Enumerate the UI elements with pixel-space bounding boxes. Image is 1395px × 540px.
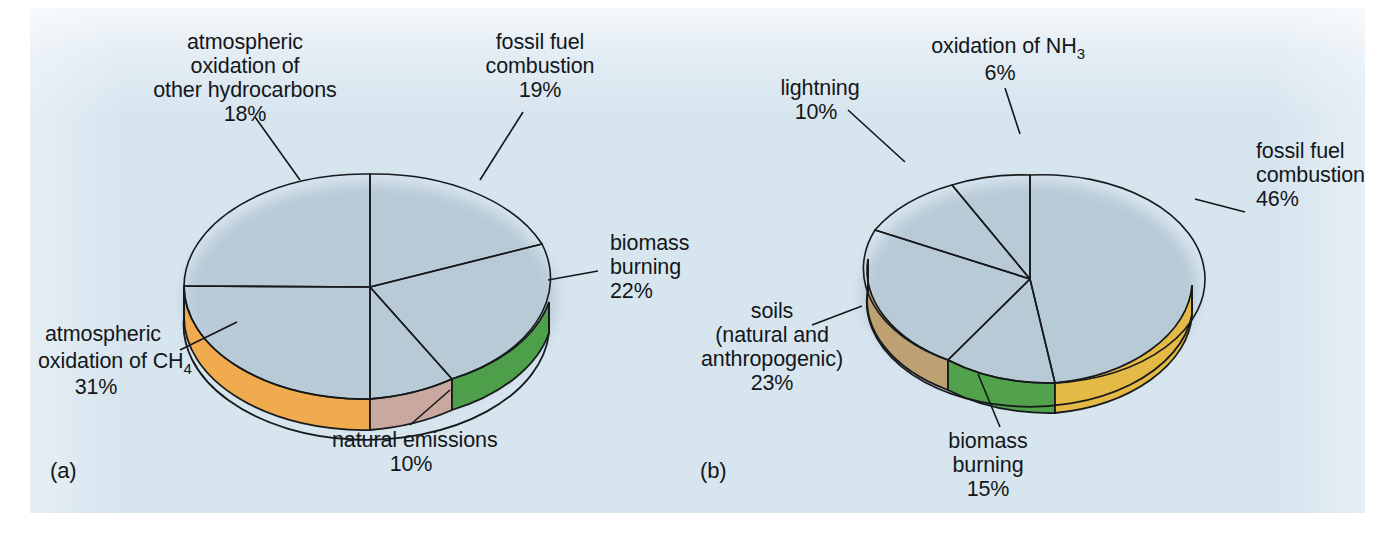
- label-lightning-line1: lightning: [780, 76, 859, 100]
- pie-charts-figure: atmospheric oxidation of other hydrocarb…: [0, 0, 1395, 540]
- pie-a-leader-hydrocarbons: [255, 117, 300, 180]
- label-soils-line1: soils: [751, 299, 794, 323]
- pie-b-label-soils: soils (natural and anthropogenic) 23%: [701, 299, 843, 395]
- pie-a-label-hydrocarbons: atmospheric oxidation of other hydrocarb…: [153, 30, 336, 126]
- label-lightning-percent: 10%: [795, 100, 838, 124]
- label-b-fossil-line1: fossil fuel: [1256, 139, 1345, 163]
- label-ch4-line1: atmospheric: [45, 322, 161, 346]
- pie-b-label-lightning: lightning 10%: [780, 76, 859, 124]
- label-ch4-percent: 31%: [75, 375, 118, 399]
- label-nh3-percent: 6%: [985, 61, 1016, 85]
- label-soils-line3: anthropogenic): [701, 347, 843, 371]
- label-biomass-percent: 22%: [610, 279, 653, 303]
- pie-b-label-biomass: biomass burning 15%: [948, 429, 1027, 501]
- label-b-fossil-percent: 46%: [1256, 187, 1299, 211]
- pie-b-leader-nh3: [1005, 88, 1020, 134]
- label-biomass-line2: burning: [610, 255, 681, 279]
- label-hydrocarbons-line2: oxidation of: [191, 54, 300, 78]
- pie-a-label-fossil-fuel: fossil fuel combustion 19%: [486, 30, 595, 102]
- label-b-fossil-line2: combustion: [1256, 163, 1365, 187]
- label-hydrocarbons-line3: other hydrocarbons: [153, 78, 336, 102]
- panel-label-a: (a): [50, 458, 77, 483]
- pie-b-label-fossil-fuel: fossil fuel combustion 46%: [1256, 139, 1365, 211]
- pie-chart-a: atmospheric oxidation of other hydrocarb…: [38, 30, 689, 483]
- label-fossil-line2: combustion: [486, 54, 595, 78]
- label-soils-line2: (natural and: [715, 323, 829, 347]
- label-natural-line1: natural emissions: [332, 428, 498, 452]
- label-b-biomass-line1: biomass: [948, 429, 1027, 453]
- label-hydrocarbons-line1: atmospheric: [187, 30, 303, 54]
- label-ch4-line2: oxidation of CH4: [38, 349, 192, 377]
- label-soils-percent: 23%: [751, 371, 794, 395]
- label-biomass-line1: biomass: [610, 231, 689, 255]
- pie-a-label-ch4: atmospheric oxidation of CH4 31%: [38, 322, 192, 399]
- pie-a-label-natural-emissions: natural emissions 10%: [332, 428, 498, 476]
- label-b-biomass-line2: burning: [952, 453, 1023, 477]
- panel-label-b: (b): [700, 458, 727, 483]
- label-hydrocarbons-percent: 18%: [224, 102, 267, 126]
- figure-page: atmospheric oxidation of other hydrocarb…: [0, 0, 1395, 540]
- pie-chart-b: oxidation of NH3 6% lightning 10% fossil…: [700, 34, 1365, 501]
- label-fossil-percent: 19%: [519, 78, 562, 102]
- pie-b-label-nh3: oxidation of NH3 6%: [931, 34, 1085, 85]
- label-b-biomass-percent: 15%: [967, 477, 1010, 501]
- pie-a-label-biomass: biomass burning 22%: [610, 231, 689, 303]
- pie-a-leader-biomass: [548, 271, 598, 280]
- label-nh3-line1: oxidation of NH3: [931, 34, 1085, 62]
- label-natural-percent: 10%: [390, 452, 433, 476]
- pie-b-leader-fossil: [1195, 199, 1245, 212]
- pie-a-leader-fossil: [480, 112, 523, 180]
- label-fossil-line1: fossil fuel: [496, 30, 585, 54]
- pie-b-leader-lightning: [848, 110, 905, 162]
